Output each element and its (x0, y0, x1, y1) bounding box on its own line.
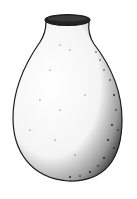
jar-drawing (0, 0, 137, 199)
jar-body (13, 22, 122, 181)
jar-illustration: Stippled ink drawing of a ceramic jar (0, 0, 137, 199)
